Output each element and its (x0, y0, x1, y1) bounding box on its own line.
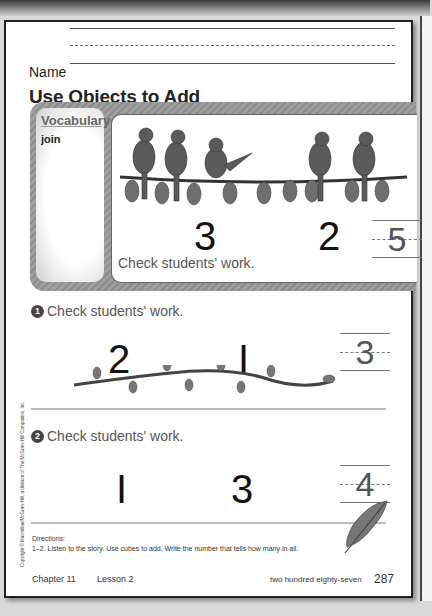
copyright-notice: Copyright © Macmillan/McGraw-Hill, a div… (20, 401, 25, 567)
name-label: Name (29, 64, 66, 80)
vine-illustration (71, 365, 341, 405)
birds-on-branch-illustration (112, 115, 417, 215)
page-number: 287 (374, 572, 394, 586)
exercise-1-note: Check students' work. (47, 303, 184, 319)
writing-line-dashed (70, 45, 395, 46)
scan-top-shadow (0, 0, 430, 16)
exercise-1-answer-box[interactable]: 3 (340, 333, 390, 371)
addend-left: 3 (194, 216, 216, 256)
vocabulary-panel: Vocabulary join (36, 108, 104, 282)
vocabulary-heading: Vocabulary (41, 113, 110, 128)
exercise-1-answer: 3 (340, 333, 390, 371)
footer-chapter-lesson: Chapter 11 Lesson 2 (32, 574, 133, 584)
name-line[interactable] (70, 63, 395, 64)
section-divider (31, 522, 386, 524)
exercise-2-right-number: 3 (231, 469, 253, 509)
feather-icon (339, 497, 389, 559)
directions-heading: Directions: (32, 535, 65, 542)
footer-page-words: two hundred eighty-seven (270, 575, 362, 584)
exercise-badge-1: 1 (31, 305, 44, 318)
exercise-2-left-number: I (116, 469, 127, 509)
worksheet-page: Name Use Objects to Add Vocabulary join (4, 20, 413, 598)
adjacent-page-edge (420, 16, 432, 601)
footer-lesson: Lesson 2 (97, 574, 134, 584)
addend-right: 2 (318, 216, 340, 256)
exercise-badge-2: 2 (31, 430, 44, 443)
answer-value: 5 (372, 220, 422, 258)
writing-line-top (70, 28, 395, 29)
check-note: Check students' work. (118, 255, 255, 271)
footer-chapter: Chapter 11 (32, 574, 76, 584)
exercise-2-note: Check students' work. (47, 428, 184, 444)
birds-scene: 3 2 5 Check students' work. (111, 114, 417, 283)
vocabulary-word: join (41, 133, 61, 145)
answer-box[interactable]: 5 (372, 220, 422, 258)
section-divider (31, 408, 386, 410)
directions-text: 1–2. Listen to the story. Use cubes to a… (32, 544, 332, 553)
vocabulary-banner: Vocabulary join (30, 102, 416, 291)
